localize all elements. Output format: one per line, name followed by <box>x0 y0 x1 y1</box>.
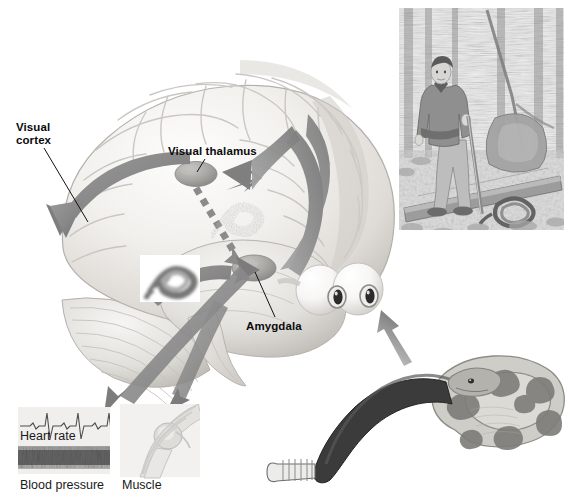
eye-iris-left <box>328 286 346 308</box>
label-visual-cortex: Visual cortex <box>16 121 76 147</box>
illustration-layer <box>0 0 570 500</box>
cortical-snake-thumbnail <box>211 195 271 241</box>
label-visual-thalamus: Visual thalamus <box>168 145 257 158</box>
caption-blood-pressure: Blood pressure <box>20 478 104 492</box>
eye-iris-right <box>360 285 378 307</box>
label-visual-cortex-line2: cortex <box>16 134 51 146</box>
coiled-rattlesnake-illustration <box>267 356 564 483</box>
visual-thalamus-nucleus <box>175 162 217 187</box>
thalamic-snake-thumbnail <box>140 255 200 302</box>
panel-muscle <box>120 404 202 478</box>
caption-muscle: Muscle <box>122 478 162 492</box>
label-visual-cortex-line1: Visual <box>16 121 50 133</box>
snake-rattle <box>267 459 315 482</box>
caption-heart-rate: Heart rate <box>20 429 76 443</box>
label-amygdala: Amygdala <box>246 320 302 333</box>
panel-blood-pressure <box>18 440 110 474</box>
figure-canvas: Visual cortex Visual thalamus Amygdala H… <box>0 0 570 500</box>
inset-hiker-scene-photo <box>397 8 566 238</box>
pathway-snake-to-eyes-arrow <box>377 310 412 366</box>
